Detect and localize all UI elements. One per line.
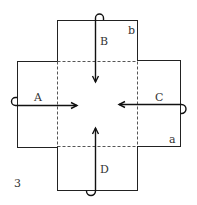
corner-label-b: b [128, 24, 135, 37]
arrow-d [87, 128, 99, 196]
label-c: C [155, 91, 163, 104]
arrow-a [12, 98, 78, 109]
corner-label-a: a [169, 133, 176, 146]
label-a: A [33, 91, 43, 104]
label-b: B [100, 35, 108, 48]
label-d: D [100, 163, 109, 176]
left-flap [18, 62, 58, 148]
fold-diagram: B A C D b a 3 [0, 0, 197, 205]
arrow-b [93, 14, 104, 82]
arrow-c [119, 102, 186, 114]
figure-number: 3 [14, 177, 21, 190]
